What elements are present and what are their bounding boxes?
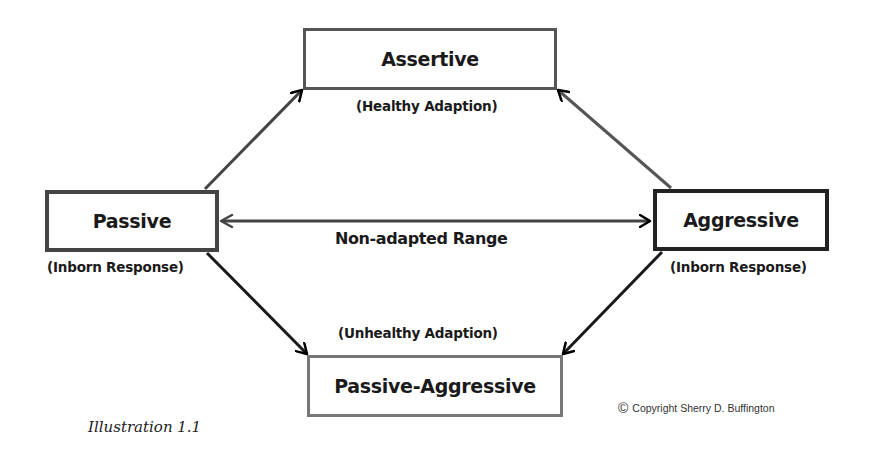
node-passive-aggressive-sublabel: (Unhealthy Adaption)	[338, 325, 498, 341]
arrow-aggressive-to-passive-aggressive	[563, 252, 662, 354]
range-label: Non-adapted Range	[335, 229, 507, 248]
node-passive-aggressive-label: Passive-Aggressive	[334, 375, 536, 397]
node-aggressive-label: Aggressive	[683, 209, 799, 231]
node-assertive-label: Assertive	[381, 48, 479, 70]
illustration-caption: Illustration 1.1	[88, 418, 201, 436]
copyright-notice: © Copyright Sherry D. Buffington	[618, 401, 775, 415]
arrow-passive-to-passive-aggressive	[207, 253, 307, 354]
arrow-aggressive-to-assertive	[558, 90, 671, 188]
node-aggressive-sublabel: (Inborn Response)	[670, 259, 807, 275]
copyright-text: Copyright Sherry D. Buffington	[632, 402, 774, 414]
node-aggressive: Aggressive	[653, 189, 829, 251]
arrow-passive-to-assertive	[205, 90, 302, 189]
double-arrow-non-adapted-range	[221, 215, 650, 227]
copyright-icon: ©	[618, 401, 628, 415]
node-passive-sublabel: (Inborn Response)	[47, 259, 184, 275]
node-passive-label: Passive	[93, 210, 172, 232]
node-passive-aggressive: Passive-Aggressive	[307, 355, 563, 417]
node-assertive-sublabel: (Healthy Adaption)	[356, 98, 497, 114]
node-passive: Passive	[45, 190, 219, 252]
behavior-diagram: Assertive (Healthy Adaption) Passive (In…	[0, 0, 872, 453]
node-assertive: Assertive	[303, 28, 557, 90]
